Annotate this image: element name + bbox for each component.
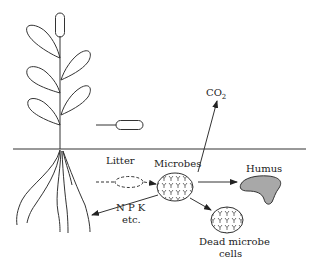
co2-label: CO2 (206, 87, 226, 101)
microbes-label: Microbes (154, 158, 201, 169)
plant-icon (27, 13, 91, 149)
dead-microbe-label-line2: cells (219, 248, 242, 259)
humus-blob (240, 176, 280, 204)
litter-to-microbes-arrow (144, 182, 156, 184)
humus-label: Humus (246, 163, 282, 174)
soil-cycle-diagram: Litter Microbes CO2 Humus Dead microbe c… (0, 0, 316, 269)
dead-microbe-label-line1: Dead microbe (199, 236, 270, 247)
litter-ellipse (115, 177, 143, 188)
npk-etc-label: etc. (122, 214, 141, 225)
microbes-to-dead-cells-arrow (190, 198, 211, 210)
plant-roots-icon (17, 150, 90, 233)
litter-label: Litter (106, 155, 135, 166)
fallen-leaf-icon (96, 121, 143, 130)
microbes-ellipse (157, 173, 193, 201)
microbes-to-co2-arrow (198, 101, 217, 172)
dead-microbe-cells-ellipse (211, 207, 243, 233)
